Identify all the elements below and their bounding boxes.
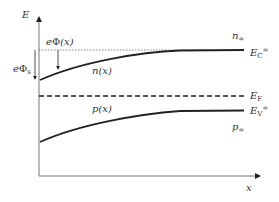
y-axis-label: E	[22, 10, 29, 20]
surface-potential-symbol: Φ	[19, 63, 27, 74]
n-x-arg: (x)	[98, 65, 111, 76]
ec-sup: ∞	[263, 46, 269, 54]
p-inf-label: p∞	[232, 122, 244, 134]
ec-inf-label: EC∞	[250, 47, 269, 60]
p-inf-sub: ∞	[238, 126, 244, 134]
potential-symbol: Φ	[52, 36, 60, 47]
ef-label: EF	[250, 91, 262, 103]
n-x-label: n(x)	[92, 66, 112, 76]
ev-sup: ∞	[262, 104, 268, 112]
n-inf-sub: ∞	[238, 35, 244, 43]
surface-potential-label: eΦs	[13, 64, 31, 76]
potential-label: eΦ(x)	[46, 37, 74, 47]
p-x-label: p(x)	[92, 104, 112, 114]
potential-arg: (x)	[60, 36, 73, 47]
valence-band-curve	[40, 111, 244, 143]
p-x-arg: (x)	[98, 103, 111, 114]
n-inf-label: n∞	[232, 31, 244, 43]
conduction-band-curve	[40, 50, 244, 80]
ef-sub: F	[257, 95, 262, 103]
ev-inf-label: EV∞	[250, 105, 268, 118]
surface-potential-sub: s	[27, 68, 31, 76]
x-axis-label: x	[246, 183, 252, 193]
